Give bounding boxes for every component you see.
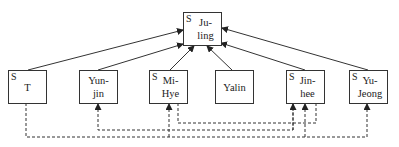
edge-yalin-to-ju-ling bbox=[207, 46, 232, 70]
node-yu-jeong[interactable]: S Yu- Jeong bbox=[349, 70, 388, 104]
dashed-edges bbox=[26, 103, 367, 137]
edge-mi-hye-to-jin-hee bbox=[178, 103, 316, 123]
node-label: Mi- Hye bbox=[150, 74, 187, 100]
node-ju-ling[interactable]: S Ju- ling bbox=[183, 12, 222, 46]
edge-yu-jeong-to-ju-ling bbox=[222, 28, 368, 70]
node-jin-hee[interactable]: S Jin- hee bbox=[286, 70, 325, 104]
node-label: Yalin bbox=[216, 81, 253, 94]
edge-mi-hye-to-ju-ling bbox=[170, 46, 194, 70]
node-label: T bbox=[9, 81, 46, 94]
node-label: Jin- hee bbox=[287, 74, 324, 100]
node-label: Yun- jin bbox=[80, 74, 117, 100]
node-label: Yu- Jeong bbox=[350, 74, 387, 100]
edge-jin-hee-to-yun-jin bbox=[98, 103, 293, 130]
node-label: Ju- ling bbox=[184, 16, 221, 42]
edge-yun-jin-to-ju-ling bbox=[98, 44, 183, 70]
edge-jin-hee-to-ju-ling bbox=[221, 43, 305, 70]
edge-t-to-ju-ling bbox=[28, 30, 183, 70]
node-mi-hye[interactable]: S Mi- Hye bbox=[149, 70, 188, 104]
node-yalin[interactable]: Yalin bbox=[215, 70, 254, 104]
node-yun-jin[interactable]: Yun- jin bbox=[79, 70, 118, 104]
node-t[interactable]: S T bbox=[8, 70, 47, 104]
